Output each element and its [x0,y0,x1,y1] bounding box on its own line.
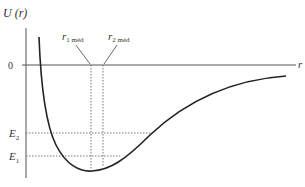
x-axis-label: r [298,58,303,70]
r1-leader [76,45,90,64]
zero-label: 0 [8,60,13,71]
r2-med-label: r2 méd [108,30,130,44]
potential-curve [39,37,286,171]
r2-leader [104,45,117,64]
e2-label: E2 [8,127,20,142]
y-axis-label: U (r) [3,6,27,20]
r1-med-label: r1 méd [62,30,84,44]
e1-label: E1 [8,150,20,165]
potential-energy-diagram: U (r) r 0 E2 E1 r1 méd r2 méd [0,0,305,187]
